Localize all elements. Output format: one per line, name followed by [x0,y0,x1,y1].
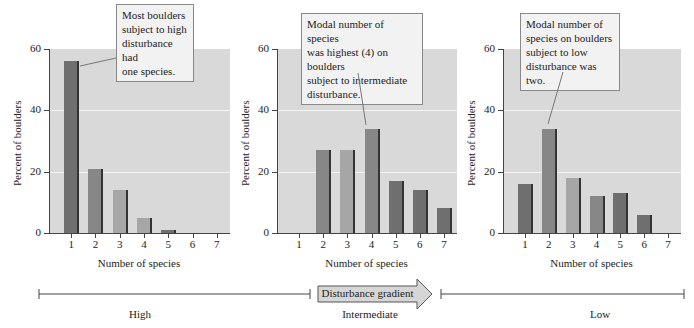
level-intermediate: Intermediate [330,308,410,320]
level-high: High [110,308,170,320]
level-low: Low [570,308,630,320]
callout-pointers [0,0,694,270]
gradient-bar: Disturbance gradient High Intermediate L… [0,270,694,328]
gradient-arrow-label: Disturbance gradient [318,287,417,299]
